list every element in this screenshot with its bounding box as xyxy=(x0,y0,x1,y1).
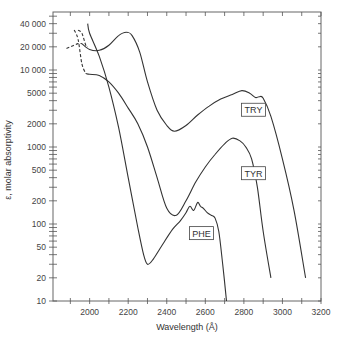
series-label-phe: PHE xyxy=(189,227,213,240)
absorption-spectrum-chart: 2000220024002600280030003200 10205010020… xyxy=(0,0,339,343)
y-tick-label: 40 000 xyxy=(20,19,46,29)
y-tick-label: 20 000 xyxy=(20,42,46,52)
y-tick-label: 100 xyxy=(32,219,46,229)
series-line-phe xyxy=(88,24,227,301)
series-label-try: TRY xyxy=(242,103,266,116)
annotation-layer: TRYTYRPHE xyxy=(189,103,265,239)
x-axis: 2000220024002600280030003200 xyxy=(70,12,330,317)
y-tick-label: 5000 xyxy=(27,88,46,98)
svg-text:TYR: TYR xyxy=(245,169,264,179)
plot-frame xyxy=(53,12,321,301)
svg-text:PHE: PHE xyxy=(192,229,211,239)
series-layer xyxy=(67,24,306,301)
y-tick-label: 50 xyxy=(37,242,47,252)
y-tick-label: 10 xyxy=(37,296,47,306)
y-tick-label: 500 xyxy=(32,165,46,175)
y-tick-label: 20 xyxy=(37,273,47,283)
x-tick-label: 2400 xyxy=(157,307,176,317)
y-tick-label: 1000 xyxy=(27,142,46,152)
x-tick-label: 3200 xyxy=(312,307,331,317)
x-tick-label: 2600 xyxy=(196,307,215,317)
x-axis-title: Wavelength (Å) xyxy=(156,322,218,332)
y-axis: 10205010020050010002000500010 00020 0004… xyxy=(20,16,321,306)
x-tick-label: 3000 xyxy=(273,307,292,317)
x-tick-label: 2000 xyxy=(80,307,99,317)
x-tick-label: 2200 xyxy=(119,307,138,317)
series-label-tyr: TYR xyxy=(242,167,266,180)
y-tick-label: 2000 xyxy=(27,119,46,129)
series-line-try xyxy=(82,32,306,278)
y-tick-label: 10 000 xyxy=(20,65,46,75)
series-line-tyr xyxy=(74,30,86,73)
y-axis-title: ε, molar absorptivity xyxy=(3,120,13,200)
y-tick-label: 200 xyxy=(32,196,46,206)
plot-border xyxy=(53,12,321,301)
x-tick-label: 2800 xyxy=(234,307,253,317)
svg-text:TRY: TRY xyxy=(245,105,263,115)
